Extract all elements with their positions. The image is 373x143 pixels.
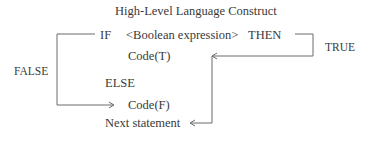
- next-statement: Next statement: [105, 116, 180, 130]
- code-true: Code(T): [128, 49, 170, 63]
- diagram-title: High-Level Language Construct: [115, 4, 277, 18]
- flow-arrows: [0, 0, 373, 143]
- if-keyword: IF: [100, 28, 111, 42]
- false-branch-line: [57, 34, 113, 105]
- next-branch-line: [191, 56, 212, 123]
- boolean-expression: <Boolean expression>: [126, 28, 238, 42]
- true-label: TRUE: [325, 40, 355, 54]
- false-label: FALSE: [14, 64, 48, 78]
- else-keyword: ELSE: [105, 76, 135, 90]
- code-false: Code(F): [128, 98, 170, 112]
- then-keyword: THEN: [248, 28, 281, 42]
